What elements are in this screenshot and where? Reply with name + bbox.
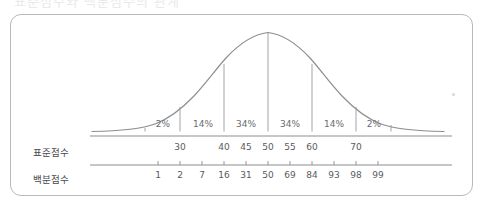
- percent-band-label: 34%: [278, 119, 302, 129]
- percent-band-label: 2%: [153, 119, 173, 129]
- percentile-score-tick: 50: [262, 170, 273, 180]
- percentile-score-tick: 84: [306, 170, 317, 180]
- percentile-score-tick: 7: [199, 170, 205, 180]
- percent-band-label: 14%: [191, 119, 215, 129]
- percent-band-label: 14%: [322, 119, 346, 129]
- standard-score-tick: 70: [350, 142, 361, 152]
- standard-score-tick: 55: [284, 142, 295, 152]
- percentile-score-axis-label: 백분점수: [33, 172, 69, 186]
- percentile-score-tick: 2: [177, 170, 183, 180]
- percent-band-label: 2%: [364, 119, 384, 129]
- percentile-score-tick: 69: [284, 170, 295, 180]
- percentile-score-tick: 93: [328, 170, 339, 180]
- standard-score-tick: 50: [262, 142, 273, 152]
- percentile-score-tick: 99: [372, 170, 383, 180]
- percent-band-label: 34%: [234, 119, 258, 129]
- standard-score-tick: 30: [174, 142, 185, 152]
- percentile-tick-marks: [158, 161, 378, 165]
- standard-score-tick: 60: [306, 142, 317, 152]
- percentile-score-tick: 31: [240, 170, 251, 180]
- standard-score-tick: 45: [240, 142, 251, 152]
- standard-score-axis-label: 표준점수: [33, 145, 69, 159]
- percentile-score-tick: 98: [350, 170, 361, 180]
- band-dividers: [145, 33, 391, 132]
- percentile-score-tick: 16: [218, 170, 229, 180]
- percentile-score-tick: 1: [155, 170, 161, 180]
- standard-score-tick: 40: [218, 142, 229, 152]
- scan-artifact-speck: [452, 93, 455, 96]
